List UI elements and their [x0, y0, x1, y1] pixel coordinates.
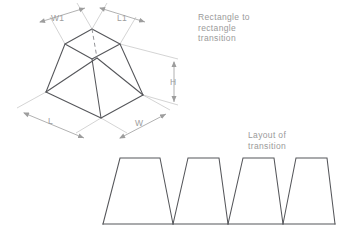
- ext-line-bot-front-a: [76, 118, 101, 133]
- note-rectangle-to-rectangle-transition: Rectangle to rectangle transition: [198, 12, 250, 44]
- layout-trapezoid-row: [103, 158, 335, 224]
- dimension-label-h: H: [170, 77, 176, 87]
- dimension-arrows: [24, 8, 174, 138]
- note-layout-of-transition: Layout of transition: [248, 130, 286, 151]
- technical-drawing-canvas: W1 L1 L W H: [0, 0, 342, 240]
- ext-line-bot-left: [17, 92, 46, 108]
- ext-line-height-bottom: [143, 95, 178, 105]
- drawing-sheet: W1 L1 L W H Rectangle to rec: [0, 0, 342, 240]
- ext-line-top-back-a: [77, 3, 92, 29]
- layout-trapezoid-4: [283, 158, 335, 224]
- layout-trapezoid-1: [103, 158, 173, 224]
- dimension-label-w: W: [135, 118, 143, 128]
- dim-arrow-l: [24, 113, 84, 138]
- ext-line-height-top: [120, 44, 178, 59]
- layout-trapezoid-3: [228, 158, 283, 224]
- ext-line-top-back-b: [92, 3, 107, 29]
- dimension-label-l: L: [48, 116, 53, 126]
- frustum-slant-right: [120, 44, 143, 95]
- frustum-top-face: [65, 29, 120, 59]
- frustum-slant-front: [92, 59, 101, 118]
- frustum-hidden-edge: [92, 29, 97, 58]
- ext-line-bot-right: [143, 95, 170, 110]
- dimension-label-w1: W1: [51, 13, 64, 23]
- layout-trapezoid-2: [173, 158, 228, 224]
- frustum-bottom-front-edges: [46, 92, 143, 118]
- dimension-lines: [17, 3, 178, 133]
- dimension-label-l1: L1: [117, 13, 127, 23]
- ext-line-bot-front-b: [101, 118, 127, 133]
- frustum-slant-left: [46, 44, 65, 92]
- frustum-geometry: [46, 29, 143, 118]
